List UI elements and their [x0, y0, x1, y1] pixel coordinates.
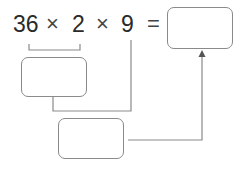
operand-36: 36	[13, 12, 39, 36]
operand-9: 9	[121, 12, 134, 36]
arrow-head-icon	[199, 50, 206, 57]
operand-2: 2	[72, 12, 85, 36]
answer-box[interactable]	[167, 7, 233, 49]
equals-sign: =	[147, 12, 160, 36]
multiply-sign: ×	[46, 12, 59, 36]
partial-product-box[interactable]	[21, 57, 87, 97]
second-step-box[interactable]	[58, 118, 124, 159]
connector-box2-to-answer	[128, 56, 202, 140]
bracket-36-2	[29, 44, 80, 50]
multiply-sign: ×	[96, 12, 109, 36]
